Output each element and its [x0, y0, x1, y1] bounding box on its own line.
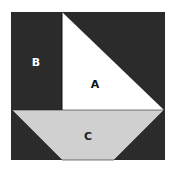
- quilt-block-diagram: B A C: [0, 0, 171, 172]
- label-c: C: [84, 130, 92, 143]
- label-a: A: [91, 78, 100, 91]
- label-b: B: [32, 56, 40, 69]
